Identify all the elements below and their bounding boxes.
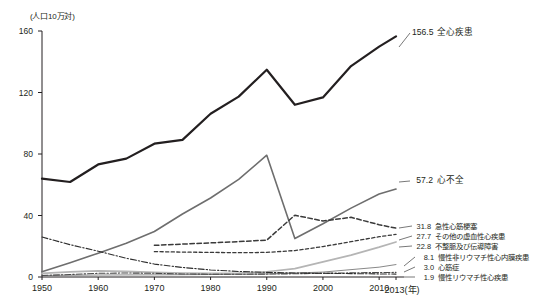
x-axis-tick-label: 1980 bbox=[189, 283, 233, 293]
x-axis-tick-label: 1950 bbox=[20, 283, 64, 293]
x-axis-tick-label: 1990 bbox=[245, 283, 289, 293]
y-axis-tick-label: 0 bbox=[11, 272, 33, 282]
legend-item-0: 156.5全心疾患 bbox=[412, 28, 473, 37]
legend-leader-0 bbox=[399, 33, 410, 47]
legend-leader-4 bbox=[399, 246, 412, 247]
x-axis-tick-label: 1970 bbox=[132, 283, 176, 293]
legend-label: 全心疾患 bbox=[437, 28, 473, 37]
legend-item-2: 31.8急性心筋梗塞 bbox=[414, 222, 477, 231]
legend-leader-lines bbox=[399, 33, 415, 277]
x-axis-tick-label: 2000 bbox=[301, 283, 345, 293]
legend-item-1: 57.2心不全 bbox=[412, 176, 464, 185]
x-axis-tick-label: 1960 bbox=[76, 283, 120, 293]
legend-leader-2 bbox=[399, 226, 412, 228]
legend-value: 3.0 bbox=[417, 263, 434, 272]
legend-leader-1 bbox=[399, 181, 410, 182]
legend-label: その他の虚血性心疾患 bbox=[435, 232, 505, 241]
y-axis-tick-label: 40 bbox=[11, 211, 33, 221]
legend-label: 慢性リウマチ性心疾患 bbox=[438, 273, 508, 282]
legend-item-4: 22.8不整脈及び伝導障害 bbox=[414, 242, 498, 251]
legend-value: 31.8 bbox=[414, 222, 431, 231]
x-axis-tick-label: 2013(年) bbox=[380, 283, 424, 296]
legend-item-5: 8.1慢性非リウマチ性心内膜疾患 bbox=[417, 253, 529, 262]
chart-container: (人口10万対) 04080120160 1950196019701980199… bbox=[0, 0, 549, 308]
legend-value: 8.1 bbox=[417, 253, 434, 262]
legend-label: 慢性非リウマチ性心内膜疾患 bbox=[438, 253, 529, 262]
y-axis-tick-label: 160 bbox=[11, 26, 33, 36]
legend-value: 27.7 bbox=[414, 232, 431, 241]
legend-value: 1.9 bbox=[417, 273, 434, 282]
legend-item-7: 1.9慢性リウマチ性心疾患 bbox=[417, 273, 508, 282]
series-line-0 bbox=[42, 36, 396, 182]
legend-label: 急性心筋梗塞 bbox=[435, 222, 477, 231]
legend-leader-5 bbox=[404, 257, 415, 266]
legend-leader-6 bbox=[404, 267, 415, 272]
series-line-2 bbox=[154, 215, 396, 245]
legend-label: 心不全 bbox=[437, 176, 464, 185]
legend-value: 57.2 bbox=[412, 176, 433, 185]
legend-item-3: 27.7その他の虚血性心疾患 bbox=[414, 232, 505, 241]
legend-leader-3 bbox=[399, 236, 412, 240]
legend-label: 不整脈及び伝導障害 bbox=[435, 242, 498, 251]
legend-label: 心筋症 bbox=[438, 263, 459, 272]
legend-value: 22.8 bbox=[414, 242, 431, 251]
legend-item-6: 3.0心筋症 bbox=[417, 263, 459, 272]
series-line-1 bbox=[42, 155, 396, 272]
y-axis-tick-label: 120 bbox=[11, 88, 33, 98]
y-axis-tick-label: 80 bbox=[11, 149, 33, 159]
legend-value: 156.5 bbox=[412, 28, 433, 37]
series-layer bbox=[42, 36, 396, 275]
series-line-4 bbox=[42, 242, 396, 274]
